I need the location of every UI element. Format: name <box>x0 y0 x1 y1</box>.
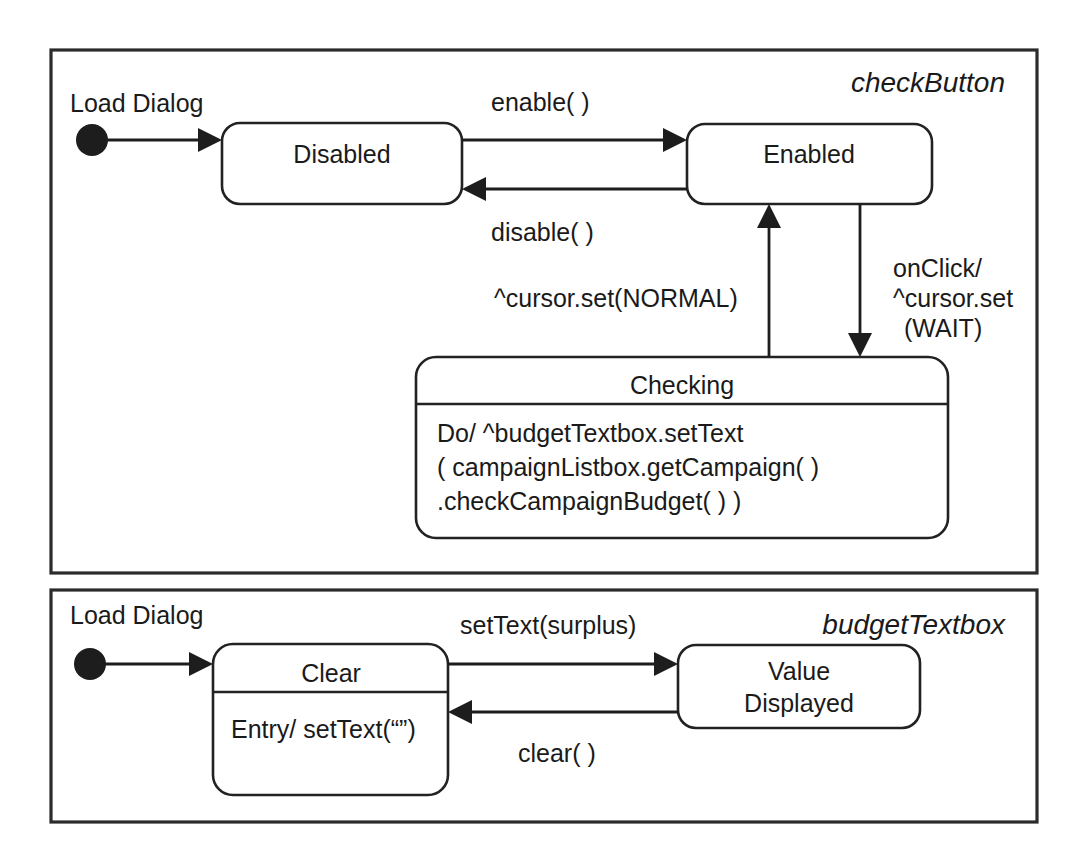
transition-label-onclick-line3: (WAIT) <box>904 314 982 342</box>
transition-enabled-to-checking: onClick/ ^cursor.set (WAIT) <box>848 204 1013 357</box>
uml-state-diagram: checkButton Load Dialog Disabled Enabled <box>0 0 1082 852</box>
state-disabled[interactable]: Disabled <box>222 123 462 204</box>
initial-label-checkbutton: Load Dialog <box>70 89 203 117</box>
transition-label-settext-surplus: setText(surplus) <box>460 611 636 639</box>
transition-init-to-disabled <box>104 128 222 152</box>
panel-checkbutton: checkButton Load Dialog Disabled Enabled <box>51 50 1037 573</box>
state-activity-checking-line3: .checkCampaignBudget( ) ) <box>437 487 741 515</box>
arrowhead-icon <box>198 128 222 152</box>
state-clear[interactable]: Clear Entry/ setText(“”) <box>213 644 448 795</box>
state-activity-checking-line1: Do/ ^budgetTextbox.setText <box>437 419 743 447</box>
transition-label-clear: clear( ) <box>518 739 596 767</box>
transition-label-onclick-line2: ^cursor.set <box>893 284 1013 312</box>
transition-label-onclick-line1: onClick/ <box>893 254 982 282</box>
panel-title-budgettextbox: budgetTextbox <box>822 609 1006 640</box>
arrowhead-icon <box>462 177 486 201</box>
state-checking[interactable]: Checking Do/ ^budgetTextbox.setText ( ca… <box>416 357 948 538</box>
state-name-value-displayed-line2: Displayed <box>744 689 854 717</box>
transition-init-to-clear <box>102 652 213 676</box>
arrowhead-icon <box>189 652 213 676</box>
state-name-enabled: Enabled <box>763 140 855 168</box>
transition-label-enable: enable( ) <box>491 88 590 116</box>
arrowhead-icon <box>654 652 678 676</box>
state-name-checking: Checking <box>630 371 734 399</box>
state-name-value-displayed-line1: Value <box>768 657 830 685</box>
arrowhead-icon <box>757 204 781 228</box>
arrowhead-icon <box>663 128 687 152</box>
state-enabled[interactable]: Enabled <box>687 124 932 204</box>
transition-settext-surplus: setText(surplus) <box>448 611 678 676</box>
state-name-disabled: Disabled <box>293 140 390 168</box>
diagram-canvas: checkButton Load Dialog Disabled Enabled <box>0 0 1082 852</box>
initial-state-dot-budgettextbox <box>74 648 106 680</box>
state-name-clear: Clear <box>301 659 361 687</box>
initial-state-dot-checkbutton <box>76 124 108 156</box>
panel-budgettextbox: budgetTextbox Load Dialog Clear Entry/ s… <box>51 590 1037 822</box>
state-activity-clear-line1: Entry/ setText(“”) <box>231 715 416 743</box>
transition-label-disable: disable( ) <box>491 218 594 246</box>
transition-enable: enable( ) <box>462 88 687 152</box>
transition-disable: disable( ) <box>462 177 687 246</box>
state-activity-checking-line2: ( campaignListbox.getCampaign( ) <box>437 453 819 481</box>
state-value-displayed[interactable]: Value Displayed <box>678 645 920 728</box>
arrowhead-icon <box>448 700 472 724</box>
panel-title-checkbutton: checkButton <box>851 67 1005 98</box>
transition-clear: clear( ) <box>448 700 678 767</box>
transition-label-cursor-normal: ^cursor.set(NORMAL) <box>494 284 738 312</box>
arrowhead-icon <box>848 333 872 357</box>
initial-label-budgettextbox: Load Dialog <box>70 601 203 629</box>
